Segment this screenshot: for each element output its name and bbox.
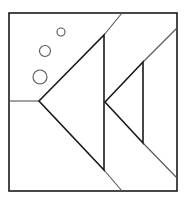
upper-big-extension-line <box>104 13 122 35</box>
lower-big-extension-line <box>104 170 122 191</box>
lower-small-extension-line <box>143 143 177 178</box>
bubble-small-icon <box>57 28 65 36</box>
upper-small-extension-line <box>143 28 177 62</box>
bubble-medium-icon <box>40 46 51 57</box>
bubble-large-icon <box>33 70 47 84</box>
extension-lines <box>9 13 177 191</box>
square-frame <box>9 13 177 191</box>
fish-triangle-diagram <box>0 0 189 204</box>
bubbles-group <box>33 28 65 84</box>
small-triangle-fin <box>105 62 143 143</box>
